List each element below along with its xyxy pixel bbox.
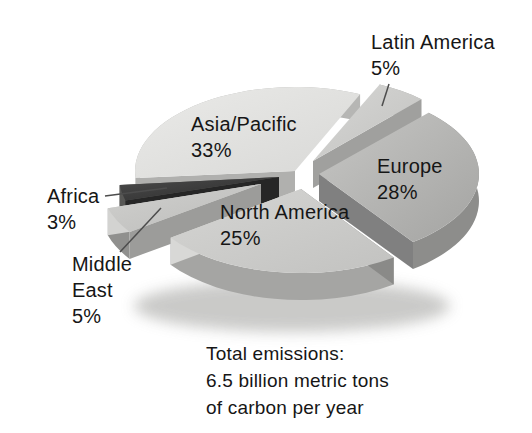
total-emissions-note: Total emissions: 6.5 billion metric tons… [206, 340, 389, 421]
label-africa: Africa 3% [47, 183, 99, 235]
label-north-america: North America 25% [220, 199, 349, 251]
label-europe: Europe 28% [377, 153, 443, 205]
label-middle-east: Middle East 5% [72, 251, 132, 329]
chart-area: Asia/Pacific 33% Latin America 5% Europe… [0, 0, 532, 433]
label-latin-america: Latin America 5% [371, 29, 495, 81]
label-asia-pacific: Asia/Pacific 33% [191, 111, 297, 163]
